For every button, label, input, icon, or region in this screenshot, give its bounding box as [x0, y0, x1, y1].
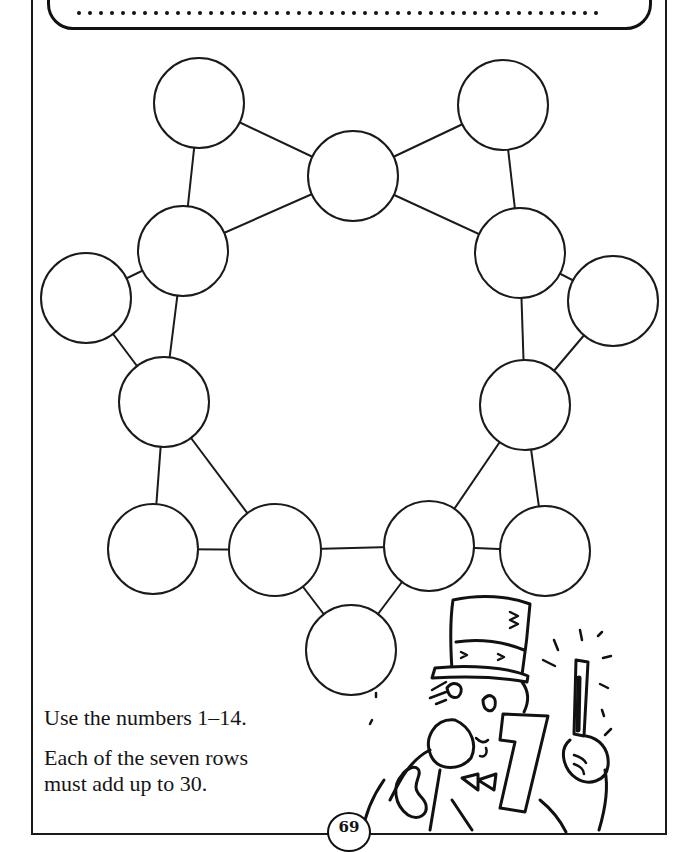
number-circle-9[interactable] [480, 360, 570, 450]
number-circle-3[interactable] [458, 60, 548, 150]
instruction-row-sum-line2: must add up to 30. [44, 771, 207, 796]
number-circle-8[interactable] [119, 357, 209, 447]
instruction-row-sum: Each of the seven rows must add up to 30… [44, 745, 248, 797]
instructions: Use the numbers 1–14. Each of the seven … [44, 705, 248, 811]
instruction-row-sum-line1: Each of the seven rows [44, 745, 248, 770]
number-circle-7[interactable] [568, 256, 658, 346]
page-number: 69 [339, 818, 360, 836]
number-circle-5[interactable] [475, 208, 565, 298]
magician-illustration [362, 597, 611, 835]
number-circle-11[interactable] [229, 504, 321, 596]
number-circle-12[interactable] [384, 501, 474, 591]
number-circle-10[interactable] [108, 504, 198, 594]
instruction-numbers-range: Use the numbers 1–14. [44, 705, 248, 731]
number-circle-4[interactable] [138, 206, 228, 296]
number-circle-13[interactable] [500, 506, 590, 596]
number-circle-2[interactable] [308, 131, 398, 221]
page-number-badge: 69 [327, 812, 371, 852]
number-circle-14[interactable] [306, 605, 396, 695]
number-circle-1[interactable] [154, 58, 244, 148]
answer-line-dots [77, 11, 598, 15]
number-circle-6[interactable] [41, 253, 131, 343]
